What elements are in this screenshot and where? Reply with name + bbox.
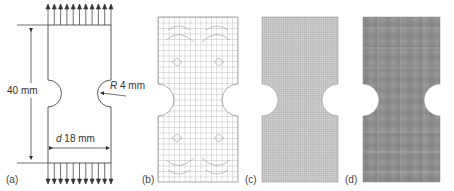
panel-label-d: (d) bbox=[345, 174, 357, 185]
panel-d-very-fine-mesh: (d) bbox=[0, 0, 454, 191]
mesh-d bbox=[0, 0, 454, 191]
